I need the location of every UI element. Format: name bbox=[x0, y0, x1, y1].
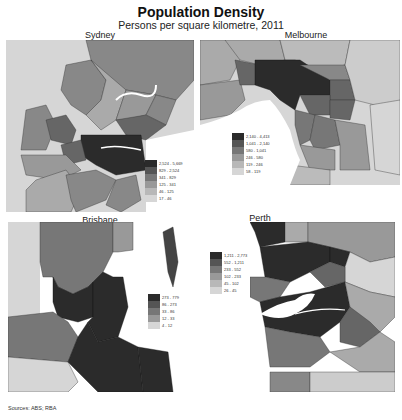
melbourne-label: Melbourne bbox=[210, 30, 402, 40]
brisbane-legend: 273 - 779 86 - 273 33 - 86 12 - 33 4 - 1… bbox=[148, 294, 179, 329]
perth-map bbox=[250, 222, 395, 392]
perth-legend: 1,211 - 2,773 552 - 1,211 233 - 552 102 … bbox=[210, 252, 247, 294]
sydney-label: Sydney bbox=[0, 30, 200, 40]
sydney-legend: 2,524 - 5,669 829 - 2,524 341 - 829 125 … bbox=[145, 160, 183, 202]
source-note: Sources: ABS; RBA bbox=[8, 405, 56, 411]
melbourne-map bbox=[200, 40, 400, 185]
chart-title: Population Density bbox=[0, 4, 402, 20]
melbourne-legend: 2,140 - 4,413 1,041 - 2,140 580 - 1,041 … bbox=[232, 133, 270, 175]
